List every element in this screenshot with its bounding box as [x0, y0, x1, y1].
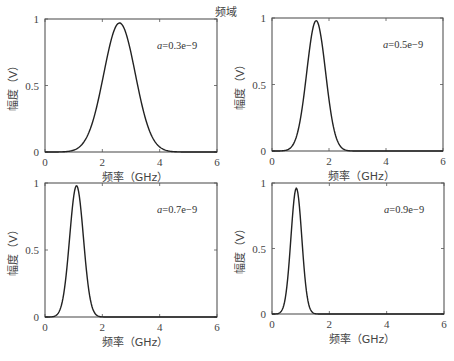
y-tick-label: 0 — [34, 311, 40, 323]
x-tick-label: 6 — [214, 156, 220, 168]
y-tick-label: 0.5 — [25, 244, 39, 256]
y-tick-label: 0.5 — [252, 243, 266, 255]
y-axis-label: 幅度（V） — [233, 59, 247, 111]
x-tick-label: 4 — [383, 155, 389, 167]
y-tick-label: 0 — [261, 308, 267, 320]
x-tick-label: 0 — [269, 155, 275, 167]
x-tick-label: 2 — [327, 318, 333, 330]
y-axis-label: 幅度（V） — [6, 224, 20, 276]
axes-box — [272, 183, 444, 314]
x-tick-label: 0 — [42, 156, 48, 168]
y-tick-label: 0 — [34, 146, 40, 158]
parameter-annotation: a=0.5e−9 — [383, 39, 423, 50]
x-tick-label: 2 — [100, 156, 106, 168]
x-tick-label: 4 — [157, 156, 163, 168]
x-tick-label: 0 — [42, 321, 48, 333]
y-tick-label: 0.5 — [25, 80, 39, 92]
y-axis-label: 幅度（V） — [6, 60, 20, 112]
y-tick-label: 0 — [261, 145, 267, 157]
x-tick-label: 2 — [326, 155, 332, 167]
y-tick-label: 0.5 — [252, 79, 266, 91]
subplot-a09: 024600.51a=0.9e−9频率（GHz）幅度（V） — [233, 177, 447, 346]
subplot-a03: 024600.51a=0.3e−9频率（GHz）幅度（V） — [6, 13, 220, 184]
figure-canvas: 024600.51a=0.3e−9频率（GHz）幅度（V）024600.51a=… — [0, 0, 454, 361]
y-tick-label: 1 — [261, 177, 267, 189]
x-tick-label: 6 — [214, 321, 220, 333]
x-axis-label: 频率（GHz） — [329, 332, 396, 346]
y-tick-label: 1 — [34, 177, 40, 189]
parameter-annotation: a=0.7e−9 — [157, 204, 197, 215]
x-axis-label: 频率（GHz） — [102, 170, 169, 184]
y-axis-label: 幅度（V） — [233, 223, 247, 275]
x-tick-label: 6 — [440, 155, 446, 167]
x-tick-label: 2 — [100, 321, 106, 333]
parameter-annotation: a=0.9e−9 — [384, 204, 424, 215]
x-tick-label: 6 — [441, 318, 447, 330]
x-axis-label: 频率（GHz） — [102, 335, 169, 349]
x-tick-label: 0 — [269, 318, 275, 330]
x-tick-label: 4 — [384, 318, 390, 330]
y-tick-label: 1 — [261, 12, 267, 24]
parameter-annotation: a=0.3e−9 — [157, 40, 197, 51]
subplot-a07: 024600.51a=0.7e−9频率（GHz）幅度（V） — [6, 177, 220, 349]
subplot-a05: 024600.51a=0.5e−9频率（GHz）幅度（V） — [233, 12, 446, 183]
y-tick-label: 1 — [34, 13, 40, 25]
axes-box — [45, 19, 217, 152]
x-tick-label: 4 — [157, 321, 163, 333]
x-axis-label: 频率（GHz） — [328, 169, 395, 183]
